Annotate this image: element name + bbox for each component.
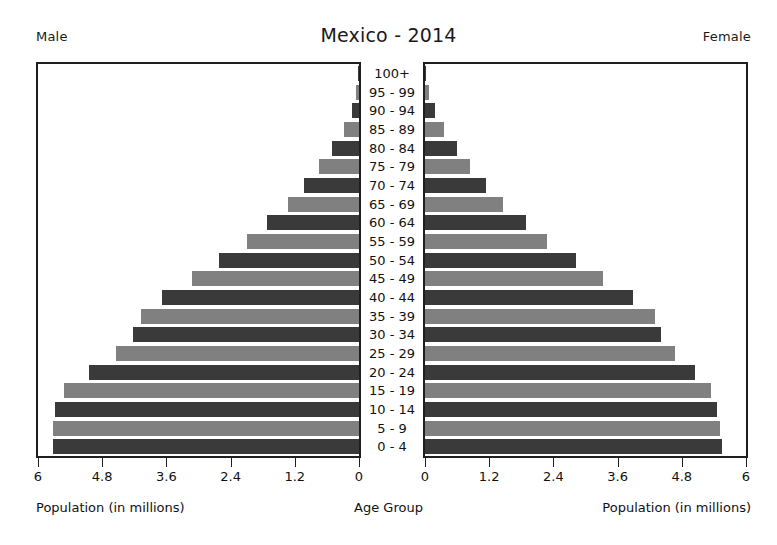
axis-tick (359, 458, 360, 467)
male-bar (332, 141, 359, 156)
axis-tick (682, 458, 683, 467)
male-bar (53, 439, 359, 454)
axis-tick (166, 458, 167, 467)
male-x-axis: 64.83.62.41.20 (36, 458, 361, 488)
axis-tick (425, 458, 426, 467)
age-group-label: 35 - 39 (361, 309, 423, 324)
female-bar (425, 103, 435, 118)
female-bar (425, 66, 426, 81)
female-bar (425, 85, 429, 100)
male-bar (267, 215, 359, 230)
axis-tick (38, 458, 39, 467)
female-bar (425, 234, 547, 249)
age-group-label: 80 - 84 (361, 141, 423, 156)
age-group-label: 90 - 94 (361, 103, 423, 118)
age-group-label: 45 - 49 (361, 271, 423, 286)
male-bar (319, 159, 359, 174)
female-bar (425, 421, 720, 436)
male-bar (89, 365, 359, 380)
female-plot-panel (423, 62, 748, 458)
female-bar (425, 122, 444, 137)
female-x-axis: 01.22.43.64.86 (423, 458, 748, 488)
axis-tick-label: 3.6 (156, 469, 177, 484)
age-group-label: 5 - 9 (361, 421, 423, 436)
female-bar (425, 159, 470, 174)
female-bar (425, 346, 675, 361)
age-group-label: 75 - 79 (361, 159, 423, 174)
age-group-label: 30 - 34 (361, 327, 423, 342)
male-bar (352, 103, 359, 118)
male-bar (304, 178, 359, 193)
axis-tick-label: 2.4 (220, 469, 241, 484)
male-bar (133, 327, 359, 342)
age-group-label: 60 - 64 (361, 215, 423, 230)
male-bar (219, 253, 359, 268)
male-bar (64, 383, 359, 398)
axis-tick-label: 3.6 (607, 469, 628, 484)
male-bar (356, 85, 359, 100)
axis-tick-label: 1.2 (479, 469, 500, 484)
female-bar (425, 365, 695, 380)
male-bar (53, 421, 359, 436)
male-bar (55, 402, 359, 417)
axis-tick-label: 6 (34, 469, 42, 484)
female-bar (425, 327, 661, 342)
male-bar (141, 309, 359, 324)
axis-tick-label: 0 (355, 469, 363, 484)
female-bar (425, 253, 576, 268)
female-bar (425, 439, 722, 454)
age-group-label: 0 - 4 (361, 439, 423, 454)
female-bar (425, 197, 503, 212)
female-bar (425, 383, 711, 398)
axis-tick-label: 4.8 (671, 469, 692, 484)
male-bar (162, 290, 359, 305)
female-bar (425, 141, 457, 156)
male-plot-panel (36, 62, 361, 458)
axis-tick (102, 458, 103, 467)
female-bar (425, 271, 603, 286)
age-group-label: 65 - 69 (361, 197, 423, 212)
age-group-label: 20 - 24 (361, 365, 423, 380)
female-bar (425, 402, 717, 417)
axis-tick-label: 1.2 (284, 469, 305, 484)
age-group-label: 25 - 29 (361, 346, 423, 361)
female-bar (425, 309, 655, 324)
female-bar (425, 290, 633, 305)
axis-tick (231, 458, 232, 467)
age-group-label: 70 - 74 (361, 178, 423, 193)
age-group-label: 10 - 14 (361, 402, 423, 417)
axis-tick-label: 6 (742, 469, 750, 484)
axis-tick (295, 458, 296, 467)
age-group-label: 40 - 44 (361, 290, 423, 305)
age-group-label: 95 - 99 (361, 85, 423, 100)
age-group-label: 55 - 59 (361, 234, 423, 249)
axis-tick (553, 458, 554, 467)
chart-title: Mexico - 2014 (0, 24, 777, 46)
right-axis-caption: Population (in millions) (602, 500, 751, 515)
age-group-label: 100+ (361, 66, 423, 81)
female-bar (425, 178, 486, 193)
axis-tick (489, 458, 490, 467)
male-bar (358, 66, 359, 81)
age-group-label: 85 - 89 (361, 122, 423, 137)
axis-tick-label: 4.8 (92, 469, 113, 484)
male-bar (116, 346, 359, 361)
axis-tick-label: 2.4 (543, 469, 564, 484)
female-bar (425, 215, 526, 230)
male-bar (192, 271, 359, 286)
axis-tick-label: 0 (421, 469, 429, 484)
age-group-axis-column: 0 - 45 - 910 - 1415 - 1920 - 2425 - 2930… (361, 62, 423, 458)
axis-tick (618, 458, 619, 467)
age-group-label: 50 - 54 (361, 253, 423, 268)
age-group-label: 15 - 19 (361, 383, 423, 398)
population-pyramid-figure: Male Female Mexico - 2014 0 - 45 - 910 -… (0, 0, 777, 545)
axis-tick (746, 458, 747, 467)
male-bar (247, 234, 359, 249)
male-bar (344, 122, 360, 137)
male-bar (288, 197, 359, 212)
